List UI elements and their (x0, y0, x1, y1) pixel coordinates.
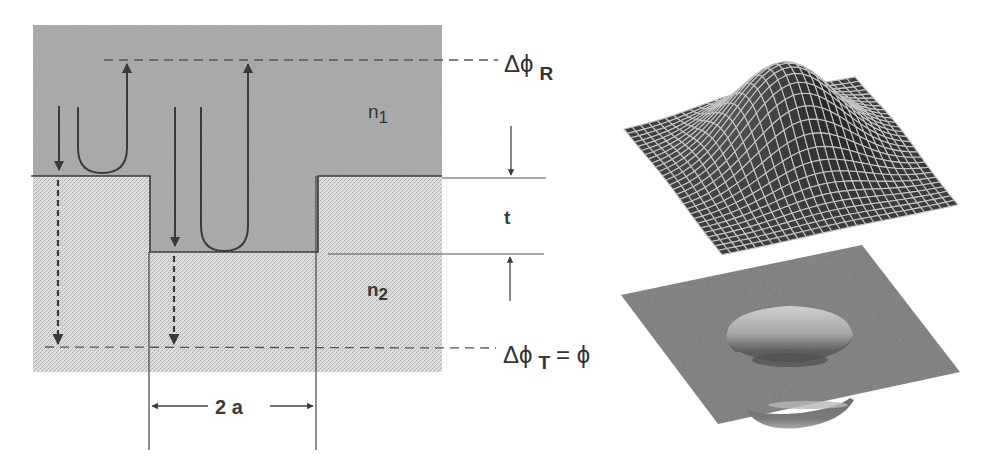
label-width-2a: 2 a (215, 396, 244, 418)
diagram-canvas: n1 n2 t 2 a ΔϕR ΔϕT= ϕ (0, 0, 994, 473)
dimple-rim-highlight (768, 401, 848, 409)
cross-section-schematic: n1 n2 t 2 a ΔϕR ΔϕT= ϕ (31, 25, 590, 450)
plate-surface (621, 245, 960, 429)
label-delta-phi-T: ΔϕT= ϕ (503, 341, 590, 373)
mesh-surface (624, 62, 958, 255)
dimple-shadow (752, 353, 828, 367)
label-t: t (504, 207, 511, 228)
label-delta-phi-R: ΔϕR (504, 50, 553, 84)
